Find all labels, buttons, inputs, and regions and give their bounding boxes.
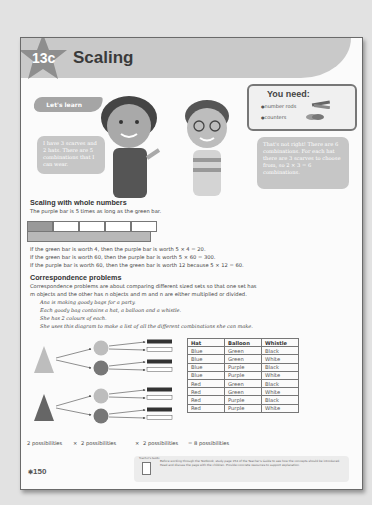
- cell: Green: [225, 379, 262, 387]
- teachers-guide-book-icon: [142, 462, 151, 475]
- times-sign-2: ×: [135, 440, 139, 446]
- cell: Blue: [188, 347, 225, 355]
- cell: Red: [188, 379, 225, 387]
- scaling-intro: The purple bar is 5 times as long as the…: [30, 208, 161, 215]
- scaling-heading: Scaling with whole numbers: [30, 198, 127, 207]
- teacher-note-text: Before working through the Textbook, stu…: [160, 459, 340, 467]
- table-row: RedPurpleWhite: [188, 404, 299, 412]
- page-title: Scaling: [73, 48, 133, 68]
- cell: Black: [262, 363, 299, 371]
- cell: Purple: [225, 396, 262, 404]
- cell: Blue: [188, 355, 225, 363]
- cell: Black: [262, 347, 299, 355]
- possibilities-whistles: 2 possibilities: [143, 440, 178, 446]
- you-need-item-number-rods: number rods: [261, 103, 296, 109]
- teachers-guide-label: Teacher's Guide: [139, 457, 160, 460]
- cell: Red: [188, 388, 225, 396]
- header-band: [21, 38, 351, 78]
- cell: Green: [225, 388, 262, 396]
- hat-blue-icon: [34, 346, 54, 373]
- table-row: BluePurpleBlack: [188, 363, 299, 371]
- you-need-item-counters: counters: [261, 114, 286, 120]
- scaling-line-2: If the green bar is worth 60, then the p…: [30, 254, 215, 261]
- combinations-table: Hat Balloon Whistle BlueGreenBlack BlueG…: [187, 338, 299, 413]
- number-rods-icon: [311, 100, 333, 109]
- tree-diagram: [29, 336, 189, 436]
- column-header-hat: Hat: [188, 339, 225, 347]
- cell: Red: [188, 404, 225, 412]
- scaling-line-3: If the purple bar is worth 60, then the …: [30, 262, 244, 269]
- speech-bubble-right: That's not right! There are 6 combinatio…: [257, 137, 349, 189]
- story-line-4: She uses this diagram to make a list of …: [40, 323, 253, 330]
- table-row: BlueGreenWhite: [188, 355, 299, 363]
- table-row: BluePurpleWhite: [188, 371, 299, 379]
- hat-red-icon: [34, 394, 54, 421]
- story-line-2: Each goody bag contains a hat, a balloon…: [40, 307, 181, 314]
- cell: Green: [225, 347, 262, 355]
- page-number: ✱150: [28, 467, 46, 476]
- story-line-1: Ana is making goody bags for a party.: [40, 299, 136, 306]
- speech-bubble-left: I have 3 scarves and 2 hats. There are 5…: [37, 136, 105, 174]
- times-sign-1: ×: [73, 440, 77, 446]
- table-row: RedGreenWhite: [188, 388, 299, 396]
- cell: White: [262, 404, 299, 412]
- table-row: BlueGreenBlack: [188, 347, 299, 355]
- cell: Blue: [188, 371, 225, 379]
- correspondence-intro-2: m objects and the other has n objects an…: [30, 291, 247, 298]
- textbook-page: 13c Scaling Let's learn You need: number…: [20, 37, 363, 490]
- table-row: RedGreenBlack: [188, 379, 299, 387]
- cell: Black: [262, 396, 299, 404]
- you-need-title: You need:: [267, 89, 310, 99]
- cell: Purple: [225, 363, 262, 371]
- cell: Purple: [225, 404, 262, 412]
- children-illustration: [89, 88, 249, 198]
- column-header-whistle: Whistle: [262, 339, 299, 347]
- possibilities-total: = 8 possibilities: [188, 440, 229, 446]
- correspondence-heading: Correspondence problems: [30, 273, 121, 282]
- table-header-row: Hat Balloon Whistle: [188, 339, 299, 347]
- cell: Green: [225, 355, 262, 363]
- cell: White: [262, 388, 299, 396]
- cell: Purple: [225, 371, 262, 379]
- table-row: RedPurpleBlack: [188, 396, 299, 404]
- possibilities-hats: 2 possibilities: [27, 440, 62, 446]
- purple-bar: [27, 231, 151, 242]
- column-header-balloon: Balloon: [225, 339, 262, 347]
- cell: Blue: [188, 363, 225, 371]
- correspondence-intro-1: Correspondence problems are about compar…: [30, 283, 257, 290]
- lesson-number: 13c: [32, 50, 55, 66]
- cell: White: [262, 371, 299, 379]
- page-number-value: 150: [33, 467, 46, 476]
- scaling-line-1: If the green bar is worth 4, then the pu…: [30, 246, 206, 253]
- cell: White: [262, 355, 299, 363]
- counters-icon: [304, 112, 326, 122]
- cell: Red: [188, 396, 225, 404]
- possibilities-balloons: 2 possibilities: [81, 440, 116, 446]
- you-need-box: You need: number rods counters: [247, 84, 357, 131]
- cell: Black: [262, 379, 299, 387]
- story-line-3: She has 2 colours of each.: [40, 315, 107, 322]
